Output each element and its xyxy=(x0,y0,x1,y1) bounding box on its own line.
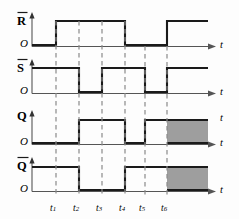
time-marker-label-t4: t4 xyxy=(119,197,125,215)
time-axis-label-q: t xyxy=(220,137,223,148)
q-bar-time-axis-arrow xyxy=(208,189,216,195)
time-marker-sub-t2: 2 xyxy=(76,205,79,212)
time-marker-sub-t1: 1 xyxy=(53,205,56,212)
q-indeterminate-shading xyxy=(167,120,208,144)
time-marker-label-t2: t2 xyxy=(73,197,79,215)
origin-label-r-bar: O xyxy=(20,37,28,49)
q-bar-y-axis-arrow xyxy=(29,157,34,164)
time-axis-label-r-bar: t xyxy=(220,39,223,50)
time-axis-label-s-bar: t xyxy=(220,86,223,97)
origin-label-q: O xyxy=(20,135,28,147)
time-marker-sub-t6: 6 xyxy=(164,205,167,212)
q-time-axis-arrow xyxy=(208,142,216,148)
time-marker-label-t5: t5 xyxy=(139,197,145,215)
signal-row-q-bar xyxy=(29,157,216,194)
time-label-q-upper: t xyxy=(220,112,223,123)
s-bar-time-axis-arrow xyxy=(208,91,216,97)
r-bar-waveform xyxy=(32,21,208,45)
time-marker-label-t3: t3 xyxy=(96,197,102,215)
q-y-axis-arrow xyxy=(29,110,34,117)
time-axis-label-q-bar: t xyxy=(220,184,223,195)
time-marker-gridlines xyxy=(56,21,167,196)
timing-diagram-figure: R S Q Q O O O O t t t t t t1 t2 t3 t4 t5… xyxy=(0,0,239,219)
signal-label-s-bar: S xyxy=(17,61,24,76)
signal-label-q: Q xyxy=(17,109,27,124)
signal-label-r-bar: R xyxy=(17,14,26,29)
origin-label-s-bar: O xyxy=(20,84,28,96)
time-marker-label-t1: t1 xyxy=(50,197,56,215)
signal-label-q-bar: Q xyxy=(17,159,27,174)
r-bar-y-axis-arrow xyxy=(29,12,34,19)
time-marker-sub-t5: 5 xyxy=(142,205,145,212)
r-bar-time-axis-arrow xyxy=(208,44,216,50)
signal-row-s-bar xyxy=(29,59,216,96)
time-marker-label-t6: t6 xyxy=(161,197,167,215)
s-bar-y-axis-arrow xyxy=(29,59,34,66)
s-bar-waveform xyxy=(32,68,208,92)
time-marker-sub-t3: 3 xyxy=(99,205,102,212)
signal-row-q xyxy=(29,110,216,147)
time-marker-sub-t4: 4 xyxy=(122,205,125,212)
q-bar-indeterminate-shading xyxy=(167,167,208,191)
origin-label-q-bar: O xyxy=(20,182,28,194)
signal-row-r-bar xyxy=(29,12,216,49)
